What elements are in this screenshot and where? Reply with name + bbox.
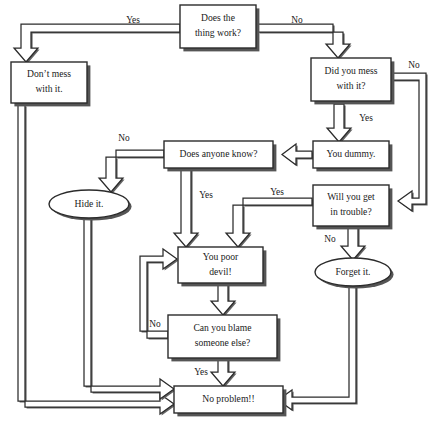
node-can-you-blame-someone-else[interactable]: Can you blame someone else? (168, 315, 280, 361)
node-label-line2: with it? (336, 80, 365, 91)
node-label-line1: Hide it. (75, 198, 104, 209)
edge-poordevil-to-blame (211, 284, 237, 317)
node-label-line1: Can you blame (193, 322, 251, 333)
flowchart-canvas: Does the thing work? Don’t mess with it.… (0, 0, 439, 426)
edge-yes-work (14, 24, 182, 64)
edge-label-yes-trouble: Yes (270, 187, 284, 197)
flowchart-svg: Does the thing work? Don’t mess with it.… (0, 0, 439, 426)
node-label-line2: thing work? (195, 27, 241, 38)
node-did-you-mess-with-it[interactable]: Did you mess with it? (311, 58, 394, 104)
edge-yes-trouble (226, 198, 314, 249)
edge-label-no-work: No (291, 15, 303, 25)
edge-no-mess (392, 73, 428, 213)
node-label-line1: You dummy. (326, 148, 375, 159)
node-hide-it[interactable]: Hide it. (49, 190, 132, 221)
node-label-line2: in trouble? (330, 206, 371, 217)
node-label-line1: Forget it. (335, 266, 370, 277)
node-will-you-get-in-trouble[interactable]: Will you get in trouble? (313, 185, 392, 229)
edge-forgetit-to-noproblem (278, 285, 358, 412)
node-does-anyone-know[interactable]: Does anyone know? (164, 141, 276, 171)
edge-hideit-to-noproblem (84, 215, 176, 401)
node-label-line2: someone else? (195, 337, 251, 348)
edge-label-yes-blame: Yes (194, 367, 208, 377)
edge-label-yes-work: Yes (126, 15, 140, 25)
node-label-line1: Will you get (327, 191, 375, 202)
node-label-line2: with it. (35, 83, 62, 94)
node-label-line1: You poor (203, 251, 239, 262)
node-you-poor-devil[interactable]: You poor devil! (178, 247, 266, 286)
node-label-line1: Does the (201, 12, 235, 23)
edge-yes-blame (211, 359, 237, 388)
node-label-line1: Did you mess (325, 65, 378, 76)
node-label-line2: devil! (209, 266, 231, 277)
edge-label-no-blame: No (149, 319, 161, 329)
edge-dummy-to-anyoneknow (282, 144, 314, 167)
edge-no-trouble (341, 226, 367, 262)
edge-label-no-trouble: No (324, 234, 336, 244)
node-no-problem[interactable]: No problem!! (174, 386, 286, 416)
node-label-line1: Don’t mess (27, 68, 71, 79)
edge-no-work (258, 24, 352, 60)
node-label-line1: No problem!! (202, 393, 255, 404)
edge-label-no-anyone-know: No (118, 133, 130, 143)
node-you-dummy[interactable]: You dummy. (313, 141, 392, 171)
edge-label-yes-anyone-know: Yes (199, 190, 213, 200)
edge-no-anyoneknow (99, 150, 166, 194)
edge-yes-anyoneknow (174, 169, 200, 249)
node-forget-it[interactable]: Forget it. (315, 258, 394, 289)
edge-yes-mess (327, 104, 353, 144)
edge-label-no-mess: No (408, 60, 420, 70)
edge-label-yes-mess: Yes (359, 113, 373, 123)
node-does-the-thing-work[interactable]: Does the thing work? (180, 5, 259, 51)
node-dont-mess-with-it[interactable]: Don’t mess with it. (11, 62, 90, 106)
node-label-line1: Does anyone know? (180, 148, 258, 159)
